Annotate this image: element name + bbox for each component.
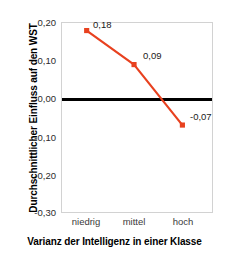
data-point-label: 0,18 xyxy=(93,20,112,30)
y-tick-label: -0,10 xyxy=(20,133,56,143)
data-point-label: 0,09 xyxy=(143,51,162,61)
y-tick-label: 0,10 xyxy=(20,56,56,66)
y-tick-label: -0,20 xyxy=(20,171,56,181)
chart-container: Durchschnittlicher Einfluss auf den WST … xyxy=(0,0,229,260)
y-tick-label: 0,20 xyxy=(20,18,56,28)
data-point-label: -0,07 xyxy=(190,112,212,122)
plot-area: 0,18 0,09 -0,07 xyxy=(61,22,213,213)
x-tick-label-hoch: hoch xyxy=(153,216,213,227)
y-axis-tick-labels: 0,20 0,10 0,00 -0,10 -0,20 -0,30 xyxy=(18,0,56,260)
x-axis-title: Varianz der Intelligenz in einer Klasse xyxy=(0,236,229,247)
y-tick-label: 0,00 xyxy=(20,94,56,104)
y-tick-label: -0,30 xyxy=(20,208,56,218)
